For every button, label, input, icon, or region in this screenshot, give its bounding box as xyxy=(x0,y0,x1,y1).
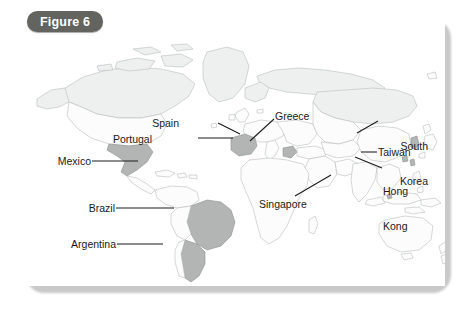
label-singapore: Singapore xyxy=(259,199,329,211)
label-argentina: Argentina xyxy=(48,239,116,251)
greece-leader-line xyxy=(250,119,274,141)
singapore-leader-line xyxy=(295,175,331,196)
label-hong-kong: Hong Kong xyxy=(383,163,433,255)
figure-container: .c { fill:#fcfcfc; stroke:#b9bcbe; strok… xyxy=(0,0,461,331)
label-hong-kong-line1: Hong xyxy=(383,186,433,198)
label-brazil: Brazil xyxy=(68,203,115,215)
label-taiwan: Taiwan xyxy=(378,147,434,159)
south-korea-leader-line xyxy=(357,121,378,133)
hong-kong-leader-line xyxy=(355,157,382,168)
label-spain: Spain xyxy=(129,118,179,130)
figure-badge: Figure 6 xyxy=(27,11,103,32)
spain-leader-line xyxy=(218,123,240,134)
label-portugal: Portugal xyxy=(92,134,152,146)
label-hong-kong-line2: Kong xyxy=(383,221,433,233)
label-greece: Greece xyxy=(275,111,335,123)
label-mexico: Mexico xyxy=(39,156,91,168)
